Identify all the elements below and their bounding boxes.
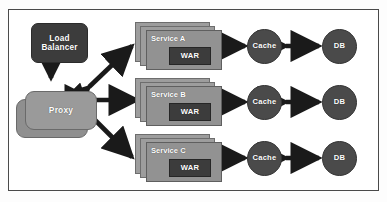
service-a-war-label: WAR xyxy=(181,52,199,61)
db-c-label: DB xyxy=(334,154,345,163)
service-a-war-artifact: WAR xyxy=(169,47,211,65)
node-cache-b[interactable]: Cache xyxy=(247,85,282,120)
node-cache-c[interactable]: Cache xyxy=(247,141,282,176)
service-c-label: Service C xyxy=(151,146,186,155)
proxy-label: Proxy xyxy=(49,106,73,115)
cache-b-label: Cache xyxy=(253,98,277,107)
cache-c-label: Cache xyxy=(253,154,277,163)
diagram-canvas: Load Balancer Proxy Service A WAR Cache xyxy=(0,0,387,202)
service-b-war-label: WAR xyxy=(181,108,199,117)
db-b-label: DB xyxy=(334,98,345,107)
node-load-balancer[interactable]: Load Balancer xyxy=(31,23,88,63)
service-a-front[interactable]: Service A WAR xyxy=(146,30,222,70)
service-a-label: Service A xyxy=(151,34,185,43)
db-a-label: DB xyxy=(334,42,345,51)
node-service-b[interactable]: Service B WAR xyxy=(135,78,224,126)
load-balancer-label: Load Balancer xyxy=(41,34,77,52)
diagram-frame: Load Balancer Proxy Service A WAR Cache xyxy=(8,9,379,191)
node-cache-a[interactable]: Cache xyxy=(247,29,282,64)
proxy-front[interactable]: Proxy xyxy=(25,91,97,130)
service-b-label: Service B xyxy=(151,90,186,99)
service-c-war-label: WAR xyxy=(181,164,199,173)
node-db-b[interactable]: DB xyxy=(322,85,357,120)
service-c-front[interactable]: Service C WAR xyxy=(146,142,222,182)
service-b-war-artifact: WAR xyxy=(169,103,211,121)
service-c-war-artifact: WAR xyxy=(169,159,211,177)
node-proxy[interactable]: Proxy xyxy=(16,91,98,138)
node-db-a[interactable]: DB xyxy=(322,29,357,64)
service-b-front[interactable]: Service B WAR xyxy=(146,86,222,126)
node-service-c[interactable]: Service C WAR xyxy=(135,134,224,182)
cache-a-label: Cache xyxy=(253,42,277,51)
arrow-proxy-to-service-a xyxy=(89,46,132,87)
node-db-c[interactable]: DB xyxy=(322,141,357,176)
node-service-a[interactable]: Service A WAR xyxy=(135,22,224,70)
